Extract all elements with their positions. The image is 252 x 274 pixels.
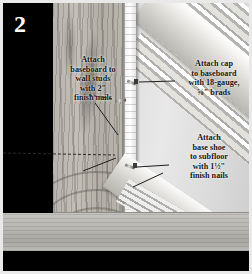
figure-step-2: 2 Attach baseboard to wall studs with 2"… — [0, 0, 252, 274]
leader-baseboard-dashed — [89, 95, 113, 99]
leader-shoe-2 — [133, 173, 163, 187]
leader-baseboard-lower — [83, 158, 116, 171]
leader-lines — [3, 3, 249, 271]
leader-baseboard — [95, 103, 118, 135]
leader-dashed-long — [3, 153, 115, 155]
leader-cap — [139, 81, 175, 82]
leader-shoe — [137, 165, 169, 167]
photo-canvas: 2 Attach baseboard to wall studs with 2"… — [3, 3, 249, 271]
